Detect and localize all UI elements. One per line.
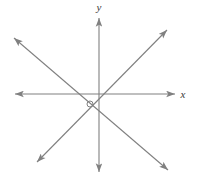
x-axis-label: x [180,88,186,100]
line-positive-slope [37,30,167,162]
angle-marker-icon [87,101,93,107]
y-axis-label: y [96,1,102,13]
coordinate-plane-figure: x y [0,0,197,182]
line-negative-slope [14,38,168,170]
figure-canvas: x y [0,0,197,182]
